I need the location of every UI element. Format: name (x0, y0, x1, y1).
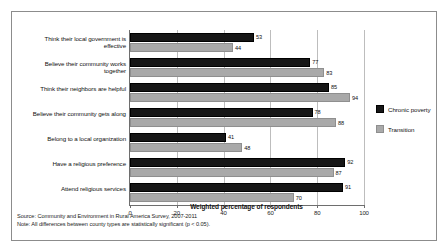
category-label: Believe their community gets along (22, 110, 126, 117)
category-label: Belong to a local organization (22, 135, 126, 142)
legend-label-transition: Transition (388, 126, 414, 133)
bar-value-label: 88 (338, 120, 344, 126)
bar-value-label: 77 (312, 59, 318, 65)
bar-transition (130, 118, 336, 127)
category-row: Think their local government is effectiv… (130, 30, 364, 55)
bar-value-label: 87 (336, 170, 342, 176)
bar-transition (130, 168, 334, 177)
bar-value-label: 78 (315, 109, 321, 115)
category-label: Have a religious preference (22, 160, 126, 167)
bar-value-label: 94 (352, 95, 358, 101)
bar-value-label: 41 (228, 134, 234, 140)
bar-chronic-poverty (130, 108, 313, 117)
bar-value-label: 44 (235, 45, 241, 51)
category-label: Attend religious services (22, 185, 126, 192)
category-row: Believe their community gets along7888 (130, 105, 364, 130)
bar-value-label: 53 (256, 34, 262, 40)
bar-value-label: 91 (345, 184, 351, 190)
category-row: Belong to a local organization4148 (130, 130, 364, 155)
chart-legend: Chronic poverty Transition (376, 105, 436, 145)
category-row: Attend religious services9170 (130, 180, 364, 205)
bar-transition (130, 93, 350, 102)
legend-item-chronic-poverty: Chronic poverty (376, 105, 436, 113)
bar-chronic-poverty (130, 83, 329, 92)
legend-item-transition: Transition (376, 125, 436, 133)
category-row: Think their neighbors are helpful8594 (130, 80, 364, 105)
bar-chronic-poverty (130, 158, 345, 167)
category-label: Think their local government is effectiv… (22, 35, 126, 50)
legend-swatch-icon-transition (376, 125, 384, 133)
category-label: Believe their community works together (22, 60, 126, 75)
category-label: Think their neighbors are helpful (22, 85, 126, 92)
bar-chronic-poverty (130, 183, 343, 192)
bar-value-label: 83 (326, 70, 332, 76)
x-tick-mark (364, 205, 365, 208)
gridline (364, 30, 365, 205)
chart-footnotes: Source: Community and Environment in Rur… (17, 212, 427, 228)
bar-chronic-poverty (130, 58, 310, 67)
bar-transition (130, 43, 233, 52)
category-row: Believe their community works together77… (130, 55, 364, 80)
bar-transition (130, 143, 242, 152)
legend-swatch-icon-chronic-poverty (376, 105, 384, 113)
x-axis-title: Weighted percentage of respondents (129, 203, 364, 210)
bar-chronic-poverty (130, 33, 254, 42)
bar-value-label: 85 (331, 84, 337, 90)
bar-transition (130, 68, 324, 77)
bar-transition (130, 193, 294, 202)
legend-label-chronic-poverty: Chronic poverty (388, 106, 431, 113)
category-row: Have a religious preference9287 (130, 155, 364, 180)
footnote-source: Source: Community and Environment in Rur… (17, 212, 427, 220)
footnote-note: Note: All differences between county typ… (17, 220, 427, 228)
bar-value-label: 48 (244, 145, 250, 151)
bar-chronic-poverty (130, 133, 226, 142)
bar-value-label: 70 (296, 195, 302, 201)
plot-area: 020406080100Think their local government… (129, 30, 364, 206)
chart-figure: 020406080100Think their local government… (11, 11, 437, 241)
bar-value-label: 92 (347, 159, 353, 165)
